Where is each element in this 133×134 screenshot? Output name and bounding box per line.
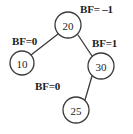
edge-30-to-25 xyxy=(85,76,92,100)
balance-factor-right: BF=1 xyxy=(92,38,117,49)
edge-20-to-30 xyxy=(78,35,92,56)
balance-factor-left: BF=0 xyxy=(12,36,37,47)
node-label-root: 20 xyxy=(63,20,75,32)
node-label-grandchild: 25 xyxy=(71,105,83,117)
node-label-right: 30 xyxy=(96,61,108,73)
avl-tree-figure: 20 10 30 25 BF= –1 BF=0 BF=1 BF=0 xyxy=(0,0,133,134)
tree-graphics: 20 10 30 25 xyxy=(0,0,133,134)
balance-factor-root: BF= –1 xyxy=(80,4,113,15)
balance-factor-grandchild: BF=0 xyxy=(35,81,60,92)
node-label-left: 10 xyxy=(17,58,29,70)
